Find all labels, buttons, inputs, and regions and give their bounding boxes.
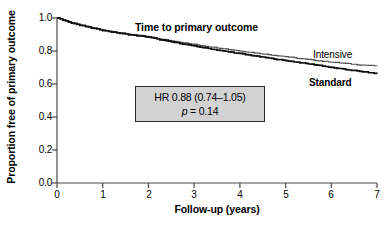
hazard-ratio-annotation-box: HR 0.88 (0.74–1.05) p = 0.14 bbox=[135, 86, 265, 122]
x-axis-ticks bbox=[57, 183, 377, 188]
y-axis-ticks bbox=[52, 18, 57, 183]
p-value-number: = 0.14 bbox=[187, 105, 218, 117]
survival-curve-intensive bbox=[57, 18, 377, 66]
kaplan-meier-chart: Proportion free of primary outcome 1.0 0… bbox=[0, 0, 389, 230]
hazard-ratio-text: HR 0.88 (0.74–1.05) bbox=[154, 90, 245, 104]
survival-curve-standard bbox=[57, 18, 377, 74]
p-value-text: p = 0.14 bbox=[182, 104, 219, 118]
